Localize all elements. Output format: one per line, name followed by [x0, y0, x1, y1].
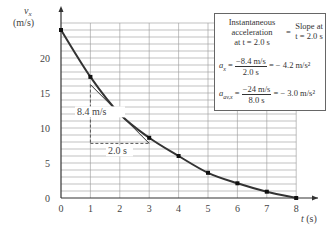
box-equals: =	[286, 27, 291, 37]
y-axis-unit: (m/s)	[13, 17, 34, 29]
acceleration-info-box: Instantaneous acceleration at t = 2.0 s …	[214, 13, 326, 111]
aav-subscript: av,x	[223, 94, 232, 100]
aav-numerator: −24 m/s	[242, 84, 272, 95]
ax-fraction: −8.4 m/s2.0 s	[235, 56, 267, 77]
svg-text:20: 20	[40, 53, 50, 64]
ax-subscript: x	[223, 66, 226, 72]
tangent-annotation: 8.4 m/s2.0 s	[75, 85, 149, 157]
box-right1: Slope at	[295, 21, 323, 31]
svg-text:10: 10	[40, 123, 50, 134]
svg-text:2: 2	[117, 203, 122, 214]
box-line3: at t = 2.0 s	[234, 37, 270, 47]
aav-result: = − 3.0 m/s²	[274, 88, 315, 98]
svg-text:15: 15	[40, 88, 50, 99]
svg-text:3: 3	[147, 203, 152, 214]
ax-result: = − 4.2 m/s²	[269, 60, 310, 70]
aav-fraction: −24 m/s8.0 s	[242, 84, 272, 105]
svg-text:4: 4	[176, 203, 181, 214]
box-right2: t = 2.0 s	[295, 31, 322, 41]
svg-text:2.0 s: 2.0 s	[108, 145, 127, 156]
svg-text:6: 6	[235, 203, 240, 214]
svg-text:7: 7	[264, 203, 269, 214]
svg-text:0: 0	[45, 193, 50, 204]
box-line2: acceleration	[231, 27, 272, 37]
ax-denominator: 2.0 s	[235, 67, 267, 77]
svg-text:5: 5	[45, 158, 50, 169]
x-axis-label: t (s)	[301, 213, 317, 225]
svg-text:0: 0	[59, 203, 64, 214]
aav-denominator: 8.0 s	[242, 95, 272, 105]
svg-text:8: 8	[294, 203, 299, 214]
ax-numerator: −8.4 m/s	[235, 56, 267, 67]
box-line1: Instantaneous	[229, 17, 276, 27]
svg-text:5: 5	[206, 203, 211, 214]
svg-text:1: 1	[88, 203, 93, 214]
svg-text:8.4 m/s: 8.4 m/s	[77, 106, 107, 117]
